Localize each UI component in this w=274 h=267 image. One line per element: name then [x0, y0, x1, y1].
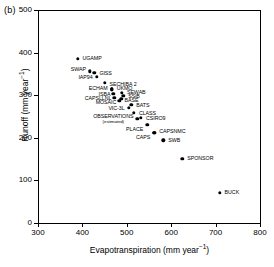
plot-area: 0100200300400500 300400500600700800 UGAM…: [38, 10, 261, 224]
data-point[interactable]: [181, 157, 184, 160]
y-axis-title-tail: ): [20, 68, 30, 71]
y-axis-title-superscript: −1: [18, 71, 25, 78]
x-axis-title: Evapotranspiration (mm year−1): [38, 244, 261, 254]
y-tick-mark: [34, 10, 38, 11]
y-tick-mark: [34, 95, 38, 96]
data-point[interactable]: [118, 99, 121, 102]
x-tick-label: 700: [209, 229, 222, 237]
x-tick-mark: [260, 223, 261, 227]
data-point[interactable]: [130, 103, 133, 106]
data-point[interactable]: [153, 131, 156, 134]
data-point-label: BATS: [136, 103, 149, 109]
x-tick-label: 400: [76, 229, 89, 237]
x-tick-mark: [216, 223, 217, 227]
data-point-label: GISS: [99, 71, 111, 77]
data-point[interactable]: [127, 106, 130, 109]
y-tick-label: 0: [28, 219, 32, 227]
y-axis-title-text: Runoff (mm year: [20, 79, 30, 142]
scatter-chart-figure: (b) 0100200300400500 300400500600700800 …: [0, 0, 274, 267]
data-point-label: CSIRO9: [146, 116, 165, 122]
x-tick-mark: [38, 223, 39, 227]
data-point-label: VIC-3L: [108, 106, 124, 112]
data-point-label: CAPS: [136, 135, 150, 141]
data-point-label: UGAMP: [83, 56, 102, 62]
data-point[interactable]: [103, 81, 106, 84]
data-point-label: PLACE: [126, 127, 143, 133]
data-point-label: BUCK: [225, 190, 240, 196]
x-tick-mark: [127, 223, 128, 227]
right-spine: [260, 10, 261, 224]
x-tick-label: 600: [165, 229, 178, 237]
data-point[interactable]: [218, 191, 221, 194]
y-tick-label: 500: [19, 6, 32, 14]
data-point-sublabel: (estimated): [93, 119, 133, 124]
top-spine: [38, 10, 261, 11]
data-point[interactable]: [136, 117, 139, 120]
y-tick-mark: [34, 53, 38, 54]
data-point-label: OBSERVATIONS(estimated): [93, 114, 133, 124]
data-point-label: SWAP: [71, 68, 86, 74]
x-tick-mark: [82, 223, 83, 227]
y-tick-mark: [34, 180, 38, 181]
x-axis-title-text: Evapotranspiration (mm year: [90, 245, 199, 255]
data-point-label: CAPSNMC: [159, 129, 185, 135]
data-point-label: SWB: [168, 139, 180, 145]
x-axis-title-tail: ): [206, 245, 209, 255]
x-tick-label: 500: [120, 229, 133, 237]
data-point[interactable]: [139, 116, 142, 119]
x-tick-label: 300: [31, 229, 44, 237]
x-tick-mark: [171, 223, 172, 227]
data-point[interactable]: [88, 70, 91, 73]
data-point[interactable]: [76, 57, 79, 60]
x-axis-line: [38, 223, 261, 224]
y-axis-title: Runoff (mm year−1): [19, 15, 29, 195]
data-point-label: SPONSOR: [187, 156, 213, 162]
data-point[interactable]: [162, 139, 165, 142]
panel-label: (b): [4, 5, 16, 15]
data-point[interactable]: [93, 71, 96, 74]
data-point[interactable]: [95, 75, 98, 78]
y-tick-mark: [34, 138, 38, 139]
y-axis-line: [38, 10, 39, 224]
data-point-label: IAP94: [78, 75, 92, 81]
x-tick-label: 800: [253, 229, 266, 237]
data-point[interactable]: [146, 123, 149, 126]
